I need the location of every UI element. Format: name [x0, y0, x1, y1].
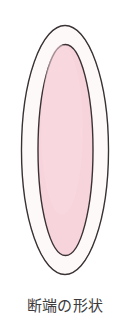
cross-section-diagram	[0, 0, 130, 288]
figure-caption: 断端の形状	[0, 296, 130, 316]
inner-shading-highlight	[41, 45, 83, 215]
diagram-area	[0, 0, 130, 288]
figure-container: 断端の形状	[0, 0, 130, 326]
